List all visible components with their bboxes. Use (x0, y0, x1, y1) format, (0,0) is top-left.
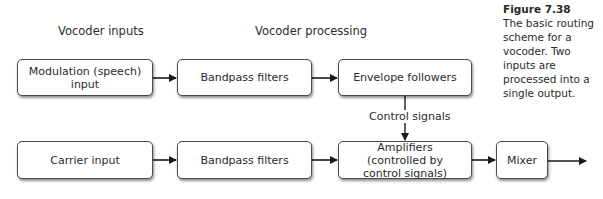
control-signals-label: Control signals (368, 110, 452, 123)
box-amplifiers-label: Amplifiers (controlled by control signal… (349, 141, 461, 180)
box-bandpass-filters-carrier: Bandpass filters (177, 141, 312, 179)
box-bandpass-filters-label: Bandpass filters (200, 71, 288, 84)
figure-caption-text: The basic routing scheme for a vocoder. … (503, 17, 594, 99)
box-envelope-followers: Envelope followers (338, 59, 472, 96)
box-bandpass-filters-modulation: Bandpass filters (177, 59, 312, 96)
box-mixer-label: Mixer (507, 154, 537, 167)
box-mixer: Mixer (496, 141, 548, 179)
box-carrier-input-label: Carrier input (50, 154, 119, 167)
figure-number: Figure 7.38 (503, 2, 603, 16)
box-bandpass-filters-label: Bandpass filters (200, 154, 288, 167)
box-modulation-input-label: Modulation (speech) input (18, 65, 152, 91)
box-modulation-input: Modulation (speech) input (17, 59, 153, 96)
box-envelope-followers-label: Envelope followers (353, 71, 457, 84)
box-amplifiers: Amplifiers (controlled by control signal… (338, 141, 472, 179)
figure-caption: Figure 7.38 The basic routing scheme for… (503, 2, 603, 100)
box-carrier-input: Carrier input (17, 141, 153, 179)
